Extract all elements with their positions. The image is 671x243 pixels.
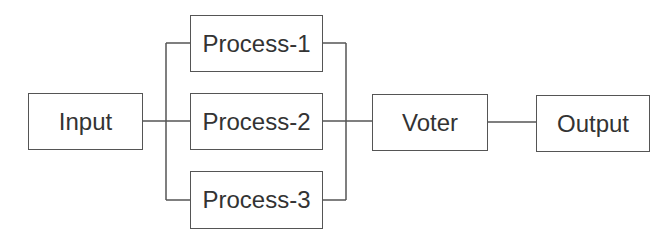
process-1-node: Process-1 (190, 15, 323, 72)
output-label: Output (557, 110, 629, 138)
voter-label: Voter (402, 109, 458, 137)
process-3-label: Process-3 (202, 186, 310, 214)
process-2-label: Process-2 (202, 108, 310, 136)
input-node: Input (28, 93, 143, 150)
process-1-label: Process-1 (202, 30, 310, 58)
input-label: Input (59, 108, 112, 136)
process-2-node: Process-2 (190, 93, 323, 150)
process-3-node: Process-3 (190, 171, 323, 229)
voter-node: Voter (372, 94, 488, 151)
output-node: Output (536, 95, 650, 152)
